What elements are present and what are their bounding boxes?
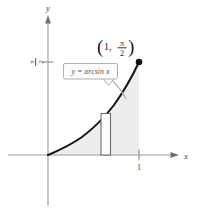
- callout-label: y = arcsin x: [70, 67, 110, 76]
- x-axis-arrow-icon: [171, 152, 180, 158]
- callout-tail-notch: [103, 79, 114, 86]
- y-tick-denominator: 2: [37, 60, 45, 64]
- y-tick-numerator: π: [28, 60, 36, 64]
- x-axis-label: x: [183, 151, 188, 161]
- y-axis-arrow-icon: [45, 15, 51, 24]
- endpoint-label-group: ( 1, π 2 ): [97, 36, 134, 58]
- endpoint-marker: [136, 59, 143, 66]
- representative-rectangle: [101, 114, 111, 156]
- endpoint-close-paren: ): [128, 36, 134, 58]
- x-tick-label-1: 1: [137, 163, 141, 172]
- arcsin-graph-svg: y = arcsin x x y 1 π 2 ( 1, π 2 ): [0, 0, 198, 208]
- endpoint-frac-numerator: π: [120, 39, 124, 48]
- y-axis-label: y: [45, 3, 50, 13]
- y-tick-label-pi-over-2: π 2: [28, 58, 45, 66]
- endpoint-frac-denominator: 2: [120, 49, 124, 58]
- endpoint-label-x: 1,: [104, 41, 112, 52]
- figure-container: y = arcsin x x y 1 π 2 ( 1, π 2 ): [0, 0, 198, 208]
- endpoint-open-paren: (: [97, 36, 103, 58]
